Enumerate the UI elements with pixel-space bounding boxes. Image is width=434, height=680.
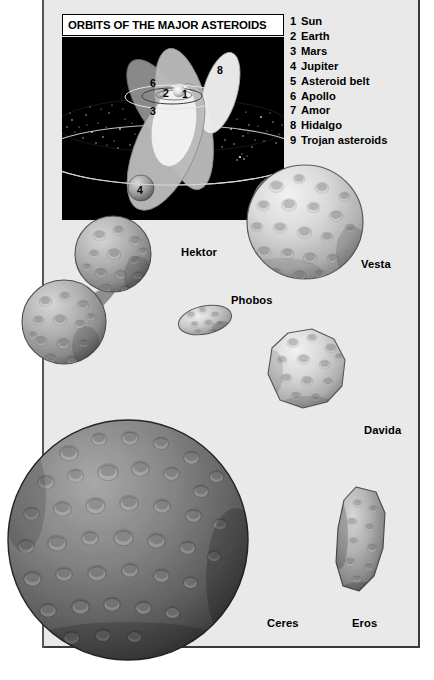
- legend-label: Mars: [301, 45, 327, 57]
- orbit-diagram-block: ORBITS OF THE MAJOR ASTEROIDS: [62, 14, 284, 220]
- marker-1-sun: 1: [182, 88, 188, 100]
- marker-3-mars: 3: [150, 105, 156, 117]
- marker-2-earth: 2: [163, 87, 169, 99]
- marker-6-apollo: 6: [150, 77, 156, 89]
- figure-label-vesta: Vesta: [361, 258, 391, 270]
- legend-number: 8: [290, 118, 301, 133]
- orbit-diagram-canvas: 1 2 3 4 6 8 7: [62, 37, 284, 220]
- panel-left-edge: [42, 0, 44, 648]
- legend-label: Hidalgo: [301, 119, 342, 131]
- legend-item-4: 4Jupiter: [290, 59, 420, 74]
- marker-8-hidalgo: 8: [217, 64, 223, 76]
- legend-label: Amor: [301, 104, 330, 116]
- legend-list: 1Sun 2Earth 3Mars 4Jupiter 5Asteroid bel…: [290, 14, 420, 148]
- legend-number: 6: [290, 89, 301, 104]
- figure-label-phobos: Phobos: [231, 294, 273, 306]
- legend-number: 9: [290, 133, 301, 148]
- legend-number: 5: [290, 74, 301, 89]
- legend-item-5: 5Asteroid belt: [290, 74, 420, 89]
- legend-item-2: 2Earth: [290, 29, 420, 44]
- legend-number: 3: [290, 44, 301, 59]
- legend-label: Jupiter: [301, 60, 338, 72]
- marker-7-amor: 7: [249, 57, 255, 69]
- figure-label-eros: Eros: [352, 617, 377, 629]
- legend-label: Sun: [301, 15, 322, 27]
- legend-item-8: 8Hidalgo: [290, 118, 420, 133]
- legend-number: 4: [290, 59, 301, 74]
- legend-number: 7: [290, 103, 301, 118]
- legend-item-6: 6Apollo: [290, 89, 420, 104]
- illustration-page: ORBITS OF THE MAJOR ASTEROIDS: [0, 0, 434, 680]
- figure-label-davida: Davida: [364, 424, 401, 436]
- legend-number: 2: [290, 29, 301, 44]
- figure-label-ceres: Ceres: [267, 617, 299, 629]
- marker-4-jupiter: 4: [137, 184, 143, 196]
- figure-label-hektor: Hektor: [181, 246, 217, 258]
- legend-item-7: 7Amor: [290, 103, 420, 118]
- legend-label: Earth: [301, 30, 330, 42]
- legend-label: Apollo: [301, 90, 336, 102]
- legend-number: 1: [290, 14, 301, 29]
- legend-item-3: 3Mars: [290, 44, 420, 59]
- legend-item-1: 1Sun: [290, 14, 420, 29]
- legend-label: Trojan asteroids: [301, 134, 387, 146]
- legend-item-9: 9Trojan asteroids: [290, 133, 420, 148]
- legend-label: Asteroid belt: [301, 75, 369, 87]
- diagram-title: ORBITS OF THE MAJOR ASTEROIDS: [62, 14, 284, 36]
